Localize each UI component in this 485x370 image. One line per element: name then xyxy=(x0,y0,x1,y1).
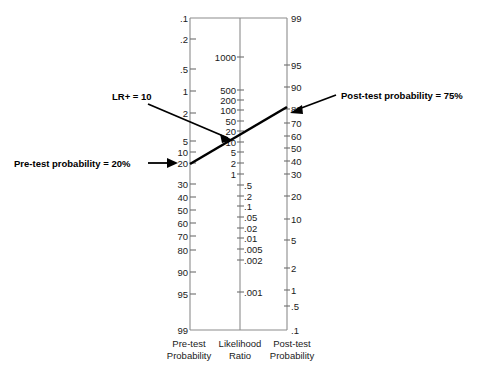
axis-captions: Pre-test Probability Likelihood Ratio Po… xyxy=(167,338,315,361)
pretest-annotation-arrowhead xyxy=(167,158,178,168)
left-tick-label: 95 xyxy=(177,289,188,300)
right-tick-label: 1 xyxy=(291,285,296,296)
left-tick-label: 10 xyxy=(177,147,188,158)
right-tick-label: 99 xyxy=(291,13,302,24)
right-axis-caption-line2: Probability xyxy=(270,350,315,361)
left-tick-label: 80 xyxy=(177,245,188,256)
left-tick-label: 60 xyxy=(177,218,188,229)
left-tick-label: 40 xyxy=(177,192,188,203)
middle-tick-label: .1 xyxy=(244,201,252,212)
lr-annotation-leader xyxy=(148,104,228,138)
left-axis-group: .1 .2 .5 1 2 5 10 20 30 40 50 60 70 80 9… xyxy=(177,13,196,336)
pretest-annotation-label: Pre-test probability = 20% xyxy=(14,158,131,169)
right-tick-label: 2 xyxy=(291,263,296,274)
middle-tick-label: .002 xyxy=(244,255,263,266)
left-axis-caption-line2: Probability xyxy=(167,350,212,361)
middle-tick-label: .5 xyxy=(244,180,252,191)
left-tick-label: 90 xyxy=(177,267,188,278)
right-tick-label: 10 xyxy=(291,214,302,225)
right-tick-label: 90 xyxy=(291,82,302,93)
middle-tick-label: 1000 xyxy=(215,52,236,63)
left-tick-label: 50 xyxy=(177,205,188,216)
middle-tick-label: 1 xyxy=(231,169,236,180)
left-tick-label: .2 xyxy=(180,34,188,45)
left-tick-label: 30 xyxy=(177,179,188,190)
right-tick-label: 30 xyxy=(291,169,302,180)
middle-tick-label: 5 xyxy=(231,147,236,158)
right-axis-caption-line1: Post-test xyxy=(273,338,311,349)
nomogram-canvas: .1 .2 .5 1 2 5 10 20 30 40 50 60 70 80 9… xyxy=(0,0,485,370)
left-tick-label: 2 xyxy=(183,108,188,119)
posttest-annotation-label: Post-test probability = 75% xyxy=(341,90,463,101)
fagan-nomogram-figure: .1 .2 .5 1 2 5 10 20 30 40 50 60 70 80 9… xyxy=(0,0,485,370)
right-tick-label: 5 xyxy=(291,235,296,246)
right-tick-label: 70 xyxy=(291,118,302,129)
right-tick-label: .1 xyxy=(291,325,299,336)
middle-tick-label: .005 xyxy=(244,244,263,255)
right-tick-label: 60 xyxy=(291,131,302,142)
middle-tick-label: 2 xyxy=(231,158,236,169)
lr-annotation-label: LR+ = 10 xyxy=(112,91,152,102)
right-tick-label: 40 xyxy=(291,156,302,167)
middle-axis-group: 1000 500 200 100 50 20 10 5 2 1 .5 .2 .1… xyxy=(215,52,263,298)
left-tick-label: 70 xyxy=(177,231,188,242)
left-tick-label: 5 xyxy=(183,136,188,147)
left-tick-label: .5 xyxy=(180,64,188,75)
left-tick-label: 1 xyxy=(183,86,188,97)
middle-axis-caption-line1: Likelihood xyxy=(219,338,262,349)
middle-tick-label: .001 xyxy=(244,287,263,298)
right-tick-label: .5 xyxy=(291,301,299,312)
right-tick-label: 95 xyxy=(291,60,302,71)
left-tick-label: .1 xyxy=(180,13,188,24)
left-axis-ticks xyxy=(190,39,196,294)
right-tick-label: 50 xyxy=(291,143,302,154)
lr-annotation: LR+ = 10 xyxy=(112,91,233,143)
middle-tick-label: .01 xyxy=(244,233,257,244)
left-tick-label: 20 xyxy=(177,158,188,169)
middle-tick-label: 100 xyxy=(220,105,236,116)
pretest-annotation: Pre-test probability = 20% xyxy=(14,158,178,169)
posttest-annotation: Post-test probability = 75% xyxy=(290,90,463,114)
middle-tick-label: 20 xyxy=(225,126,236,137)
left-tick-label: 99 xyxy=(177,325,188,336)
worked-example-ray xyxy=(190,107,287,164)
left-axis-caption-line1: Pre-test xyxy=(172,338,206,349)
middle-axis-caption-line2: Ratio xyxy=(229,350,251,361)
middle-tick-label: .05 xyxy=(244,212,257,223)
right-tick-label: 20 xyxy=(291,191,302,202)
